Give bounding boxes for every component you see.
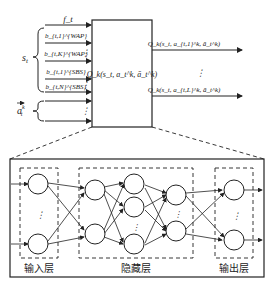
action-brace [33, 101, 44, 121]
input-f: f_t [63, 14, 73, 24]
q-function-label: Q_k(s_t, a_t^k, ā_t^k) [87, 70, 158, 79]
neuron [28, 174, 48, 194]
neuron [166, 185, 186, 205]
neuron [124, 174, 144, 194]
output-q-l: Q_k(s_t, a_{t,L}^k, ā_t^k) [148, 86, 221, 94]
neurons [28, 174, 244, 254]
ellipsis: ⋮ [81, 106, 90, 116]
neuron [124, 234, 144, 254]
ellipsis: ⋮ [132, 223, 140, 232]
neuron [166, 221, 186, 241]
zoom-lines [10, 127, 264, 159]
input-b-sbs-1: b_{t,1}^{SBS} [46, 68, 86, 76]
hidden-layer-label: 隐藏层 [121, 263, 151, 274]
ellipsis: ⋮ [174, 210, 182, 219]
output-q-1: Q_k(s_t, a_{t,1}^k, ā_t^k) [148, 40, 221, 48]
neuron [224, 180, 244, 200]
ellipsis: ⋮ [232, 211, 241, 221]
neuron [85, 224, 105, 244]
neuron [28, 234, 48, 254]
state-brace [33, 28, 44, 92]
q-network-diagram: Q_k(s_t, a_t^k, ā_t^k) f_t b_{t,1}^{WAP}… [0, 0, 277, 290]
ellipsis: ⋮ [81, 80, 90, 90]
neuron [224, 230, 244, 250]
neuron [85, 180, 105, 200]
input-layer-label: 输入层 [24, 262, 54, 274]
action-label: akt [17, 104, 25, 117]
neuron [124, 197, 144, 217]
ellipsis: ⋮ [36, 210, 45, 220]
state-label: st [22, 52, 29, 65]
ellipsis: ⋮ [196, 68, 205, 78]
input-b-wap-1: b_{t,1}^{WAP} [45, 32, 87, 40]
ellipsis: ⋮ [81, 48, 90, 58]
output-layer-label: 输出层 [219, 262, 249, 274]
